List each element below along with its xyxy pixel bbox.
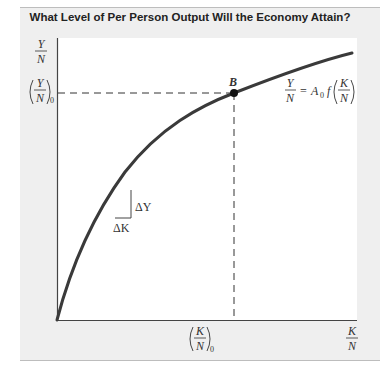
svg-text:=: =	[300, 84, 307, 98]
y-axis-label: Y N	[35, 37, 47, 66]
svg-text:0: 0	[210, 345, 214, 354]
svg-text:N: N	[195, 339, 205, 353]
point-b	[230, 89, 238, 97]
svg-text:A: A	[310, 84, 319, 98]
svg-text:Y: Y	[38, 37, 46, 51]
svg-text:N: N	[35, 91, 45, 105]
svg-text:Y: Y	[37, 76, 45, 90]
svg-text:N: N	[347, 339, 357, 353]
svg-text:K: K	[195, 324, 205, 338]
delta-k-label: ΔK	[113, 221, 130, 235]
plot-area	[57, 38, 357, 320]
svg-text:K: K	[339, 76, 349, 90]
y0-label: Y N 0	[30, 76, 54, 105]
svg-text:N: N	[285, 91, 295, 105]
svg-text:0: 0	[50, 96, 54, 105]
chart-plot: ΔY ΔK B Y N = A 0 f K N Y N Y N 0 K N	[0, 0, 380, 366]
svg-text:N: N	[36, 52, 46, 66]
delta-y-label: ΔY	[135, 200, 152, 214]
svg-text:N: N	[339, 91, 349, 105]
x0-label: K N 0	[190, 324, 214, 354]
x-axis-label: K N	[346, 324, 358, 353]
svg-text:0: 0	[320, 91, 324, 100]
point-b-label: B	[228, 75, 237, 89]
svg-text:K: K	[347, 324, 357, 338]
